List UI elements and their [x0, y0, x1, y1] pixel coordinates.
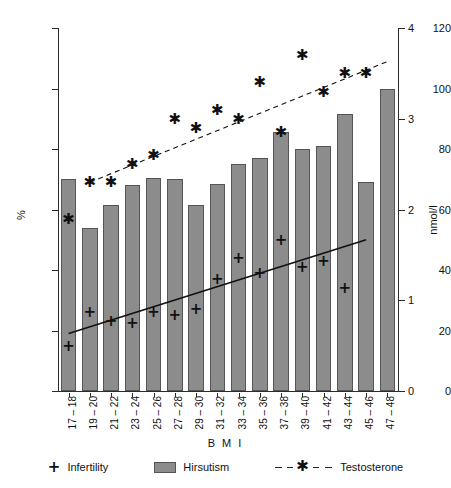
- x-axis-line: [58, 391, 399, 392]
- star-marker-icon: ✱: [296, 459, 309, 474]
- x-axis-tick-label: 29 – 30: [195, 396, 205, 429]
- y-axis-right-tick-label: 4: [408, 23, 414, 34]
- y-axis-right-tick-label: 0: [408, 386, 414, 397]
- legend-label-infertility: Infertility: [67, 461, 108, 473]
- y-axis-right-title: nmol/l: [427, 205, 439, 234]
- y-axis-left-tick-label: 100: [401, 83, 451, 94]
- y-axis-right-tick-label: 1: [408, 295, 414, 306]
- legend-item-hirsutism: Hirsutism: [154, 461, 229, 473]
- y-axis-right-tick: [398, 300, 405, 301]
- x-axis-tick-label: 33 – 34: [238, 396, 248, 429]
- x-axis-tick-label: 41 – 42: [323, 396, 333, 429]
- x-axis-tick-label: 27 – 28: [174, 396, 184, 429]
- x-axis-tick-label: 25 – 26: [153, 396, 163, 429]
- x-axis-tick-label: 19 – 20: [89, 396, 99, 429]
- x-axis-tick-label: 43 – 44: [344, 396, 354, 429]
- y-axis-right-tick: [398, 119, 405, 120]
- y-axis-right-tick: [398, 210, 405, 211]
- testosterone-trendline: [90, 62, 388, 183]
- bar-swatch-icon: [154, 462, 176, 473]
- trendlines: [58, 28, 398, 391]
- legend-label-testosterone: Testosterone: [340, 461, 403, 473]
- chart-figure: 020406080100120 01234 % nmol/l B M I +++…: [0, 0, 451, 488]
- x-axis-tick-label: 47 – 48: [386, 396, 396, 429]
- y-axis-right-tick: [398, 28, 405, 29]
- x-axis-tick-label: 31 – 32: [216, 396, 226, 429]
- x-axis-tick-label: 37 – 38: [280, 396, 290, 429]
- x-axis-tick-label: 17 – 18: [68, 396, 78, 429]
- y-axis-left-tick-label: 20: [401, 325, 451, 336]
- x-axis-tick-label: 35 – 36: [259, 396, 269, 429]
- legend-item-infertility: + Infertility: [48, 460, 109, 475]
- x-axis-title: B M I: [0, 437, 451, 449]
- y-axis-left-tick-label: 40: [401, 265, 451, 276]
- y-axis-right-tick-label: 3: [408, 113, 414, 124]
- x-axis-tick-label: 39 – 40: [301, 396, 311, 429]
- plot-area: ++++++++++++++✱✱✱✱✱✱✱✱✱✱✱✱✱✱✱: [58, 28, 398, 391]
- y-axis-right-tick-label: 2: [408, 204, 414, 215]
- legend-label-hirsutism: Hirsutism: [183, 461, 229, 473]
- dashed-star-line-icon: ✱: [275, 462, 333, 473]
- y-axis-left-tick-label: 80: [401, 144, 451, 155]
- x-axis-tick-label: 21 – 22: [110, 396, 120, 429]
- y-axis-right-tick: [398, 391, 405, 392]
- y-axis-left-title: %: [15, 210, 27, 220]
- x-axis-tick-label: 23 – 24: [131, 396, 141, 429]
- y-axis-left-tick: [52, 391, 59, 392]
- infertility-trendline: [69, 240, 367, 334]
- x-axis-tick-label: 45 – 46: [365, 396, 375, 429]
- plus-marker-icon: +: [48, 460, 61, 475]
- chart-legend: + Infertility Hirsutism ✱ Testosterone: [0, 456, 451, 478]
- legend-item-testosterone: ✱ Testosterone: [275, 461, 403, 473]
